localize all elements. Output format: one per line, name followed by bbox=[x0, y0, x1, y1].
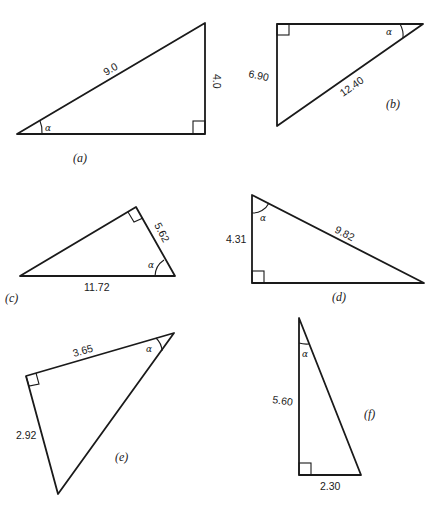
triangle-a: α 9.0 4.0 (a) bbox=[17, 23, 223, 165]
triangle-d: α 4.31 9.82 (d) bbox=[226, 195, 424, 304]
right-angle-marker bbox=[299, 463, 311, 475]
right-angle-marker bbox=[252, 271, 264, 283]
angle-arc bbox=[252, 203, 269, 213]
alpha-label: α bbox=[386, 27, 392, 37]
caption-e: (e) bbox=[115, 450, 128, 464]
angle-arc bbox=[400, 24, 403, 38]
caption-d: (d) bbox=[332, 290, 346, 304]
caption-a: (a) bbox=[73, 151, 87, 165]
side-label: 2.30 bbox=[320, 480, 341, 492]
alpha-label: α bbox=[45, 123, 51, 133]
triangle-f: α 5.60 2.30 (f) bbox=[272, 318, 376, 492]
hypotenuse-label: 9.82 bbox=[333, 223, 357, 243]
hypotenuse-label: 11.72 bbox=[84, 281, 110, 293]
hypotenuse-label: 12.40 bbox=[337, 74, 366, 99]
alpha-label: α bbox=[146, 344, 152, 354]
caption-f: (f) bbox=[364, 407, 375, 421]
right-angle-marker bbox=[277, 24, 289, 35]
alpha-label: α bbox=[148, 260, 154, 270]
side-label: 2.92 bbox=[16, 429, 37, 441]
angle-arc bbox=[156, 338, 162, 351]
angle-arc bbox=[40, 121, 42, 134]
side-label: 5.60 bbox=[272, 393, 294, 408]
side-label: 6.90 bbox=[248, 67, 271, 83]
alpha-label: α bbox=[302, 349, 308, 359]
side-label: 4.31 bbox=[226, 233, 247, 245]
caption-b: (b) bbox=[386, 97, 400, 111]
right-triangles-figure: α 9.0 4.0 (a) α 6.90 12.40 (b) α 5.62 11… bbox=[0, 0, 436, 515]
triangle-b: α 6.90 12.40 (b) bbox=[248, 24, 423, 126]
caption-c: (c) bbox=[5, 291, 18, 305]
angle-arc bbox=[155, 260, 164, 276]
triangle-c: α 5.62 11.72 (c) bbox=[5, 207, 175, 305]
side-label: 4.0 bbox=[211, 74, 223, 89]
right-angle-marker bbox=[193, 121, 205, 134]
triangle-e: α 3.65 2.92 (e) bbox=[16, 333, 174, 494]
alpha-label: α bbox=[260, 213, 266, 223]
angle-arc bbox=[299, 343, 309, 344]
